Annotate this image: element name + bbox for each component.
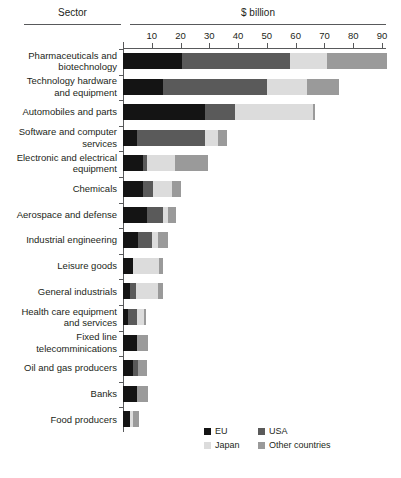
x-tick-label-50: 50 xyxy=(262,30,273,41)
y-tick-mark xyxy=(119,151,124,152)
x-tick-mark-20 xyxy=(181,43,182,48)
category-label: Technology hardware and equipment xyxy=(0,75,117,98)
legend-label-eu: EU xyxy=(215,427,228,436)
bar-segment-other-countries xyxy=(137,386,148,402)
category-label: Oil and gas producers xyxy=(0,362,117,374)
legend-item-japan: Japan xyxy=(204,441,258,450)
bar-segment-usa xyxy=(137,130,205,146)
bar-segment-other-countries xyxy=(138,360,147,376)
x-tick-label-90: 90 xyxy=(377,30,388,41)
x-tick-mark-80 xyxy=(353,43,354,48)
category-label: Aerospace and defense xyxy=(0,209,117,221)
unit-header-rule xyxy=(130,24,386,25)
bar-segment-other-countries xyxy=(172,181,181,197)
bar-segment-other-countries xyxy=(313,104,315,120)
legend-label-japan: Japan xyxy=(215,441,240,450)
bar-segment-usa xyxy=(143,181,153,197)
x-tick-mark-10 xyxy=(152,43,153,48)
x-tick-label-10: 10 xyxy=(146,30,157,41)
bar-segment-usa xyxy=(138,232,152,248)
bar-segment-eu xyxy=(123,181,143,197)
y-tick-mark xyxy=(119,382,124,383)
bar-segment-japan xyxy=(133,258,159,274)
legend-label-other: Other countries xyxy=(269,441,331,450)
category-label: Software and computer services xyxy=(0,126,117,149)
bar-segment-eu xyxy=(123,79,163,95)
bar-segment-eu xyxy=(123,104,205,120)
x-tick-mark-90 xyxy=(382,43,383,48)
legend-item-eu: EU xyxy=(204,427,258,436)
y-tick-mark xyxy=(119,356,124,357)
x-tick-mark-60 xyxy=(296,43,297,48)
category-label: Automobiles and parts xyxy=(0,106,117,118)
bar-segment-japan xyxy=(153,181,172,197)
x-tick-label-40: 40 xyxy=(233,30,244,41)
y-tick-mark xyxy=(119,331,124,332)
category-label: Banks xyxy=(0,388,117,400)
y-tick-mark xyxy=(119,49,124,50)
y-tick-mark xyxy=(119,407,124,408)
legend-item-usa: USA xyxy=(258,427,288,436)
x-tick-mark-70 xyxy=(324,43,325,48)
category-label: Food producers xyxy=(0,414,117,426)
category-label: Chemicals xyxy=(0,183,117,195)
x-tick-mark-40 xyxy=(238,43,239,48)
bar-segment-eu xyxy=(123,386,137,402)
category-label: Pharmaceuticals and biotechnology xyxy=(0,50,117,73)
bar-segment-eu xyxy=(123,232,138,248)
x-tick-mark-30 xyxy=(209,43,210,48)
legend-row-top: EU USA xyxy=(204,424,331,438)
bar-segment-other-countries xyxy=(159,258,164,274)
x-tick-label-60: 60 xyxy=(290,30,301,41)
y-tick-mark xyxy=(119,177,124,178)
bar-segment-other-countries xyxy=(307,79,339,95)
bar-segment-japan xyxy=(235,104,313,120)
bar-segment-other-countries xyxy=(175,155,208,171)
bar-segment-japan xyxy=(205,130,218,146)
bar-segment-other-countries xyxy=(137,335,148,351)
bar-segment-eu xyxy=(123,283,130,299)
x-tick-label-20: 20 xyxy=(175,30,186,41)
bar-segment-usa xyxy=(205,104,235,120)
bar-segment-usa xyxy=(128,309,138,325)
bar-segment-eu xyxy=(123,207,147,223)
category-label: Industrial engineering xyxy=(0,234,117,246)
bar-segment-other-countries xyxy=(133,411,139,427)
category-label: Electronic and electrical equipment xyxy=(0,152,117,175)
bar-segment-other-countries xyxy=(168,207,176,223)
x-tick-mark-50 xyxy=(267,43,268,48)
category-label: Fixed line telecomminications xyxy=(0,331,117,354)
y-tick-mark xyxy=(119,228,124,229)
bar-segment-eu xyxy=(123,258,133,274)
unit-axis-header: $ billion xyxy=(130,7,386,18)
x-axis-tick-labels: 102030405060708090 xyxy=(0,30,401,43)
x-axis-line xyxy=(123,48,386,49)
x-tick-label-80: 80 xyxy=(348,30,359,41)
bar-segment-eu xyxy=(123,130,137,146)
bar-segment-usa xyxy=(182,53,290,69)
bar-segment-japan xyxy=(147,155,175,171)
x-tick-label-70: 70 xyxy=(319,30,330,41)
bar-segment-japan xyxy=(290,53,327,69)
bar-segment-eu xyxy=(123,155,143,171)
legend-swatch-other xyxy=(258,442,265,449)
y-tick-mark xyxy=(119,203,124,204)
sector-header-rule xyxy=(24,24,121,25)
x-tick-label-30: 30 xyxy=(204,30,215,41)
bar-segment-other-countries xyxy=(327,53,387,69)
bar-segment-eu xyxy=(123,335,137,351)
category-label: General industrials xyxy=(0,286,117,298)
x-axis-origin-tick xyxy=(123,42,124,49)
bar-segment-usa xyxy=(163,79,267,95)
bar-segment-japan xyxy=(137,309,144,325)
y-tick-mark xyxy=(119,305,124,306)
bar-segment-eu xyxy=(123,360,133,376)
legend-swatch-japan xyxy=(204,442,211,449)
chart-container: Sector $ billion 102030405060708090 Phar… xyxy=(0,0,401,478)
legend-item-other: Other countries xyxy=(258,441,331,450)
y-tick-mark xyxy=(119,100,124,101)
bar-segment-eu xyxy=(123,53,182,69)
bar-segment-other-countries xyxy=(158,232,168,248)
legend-row-bottom: Japan Other countries xyxy=(204,438,331,452)
bar-segment-other-countries xyxy=(144,309,146,325)
